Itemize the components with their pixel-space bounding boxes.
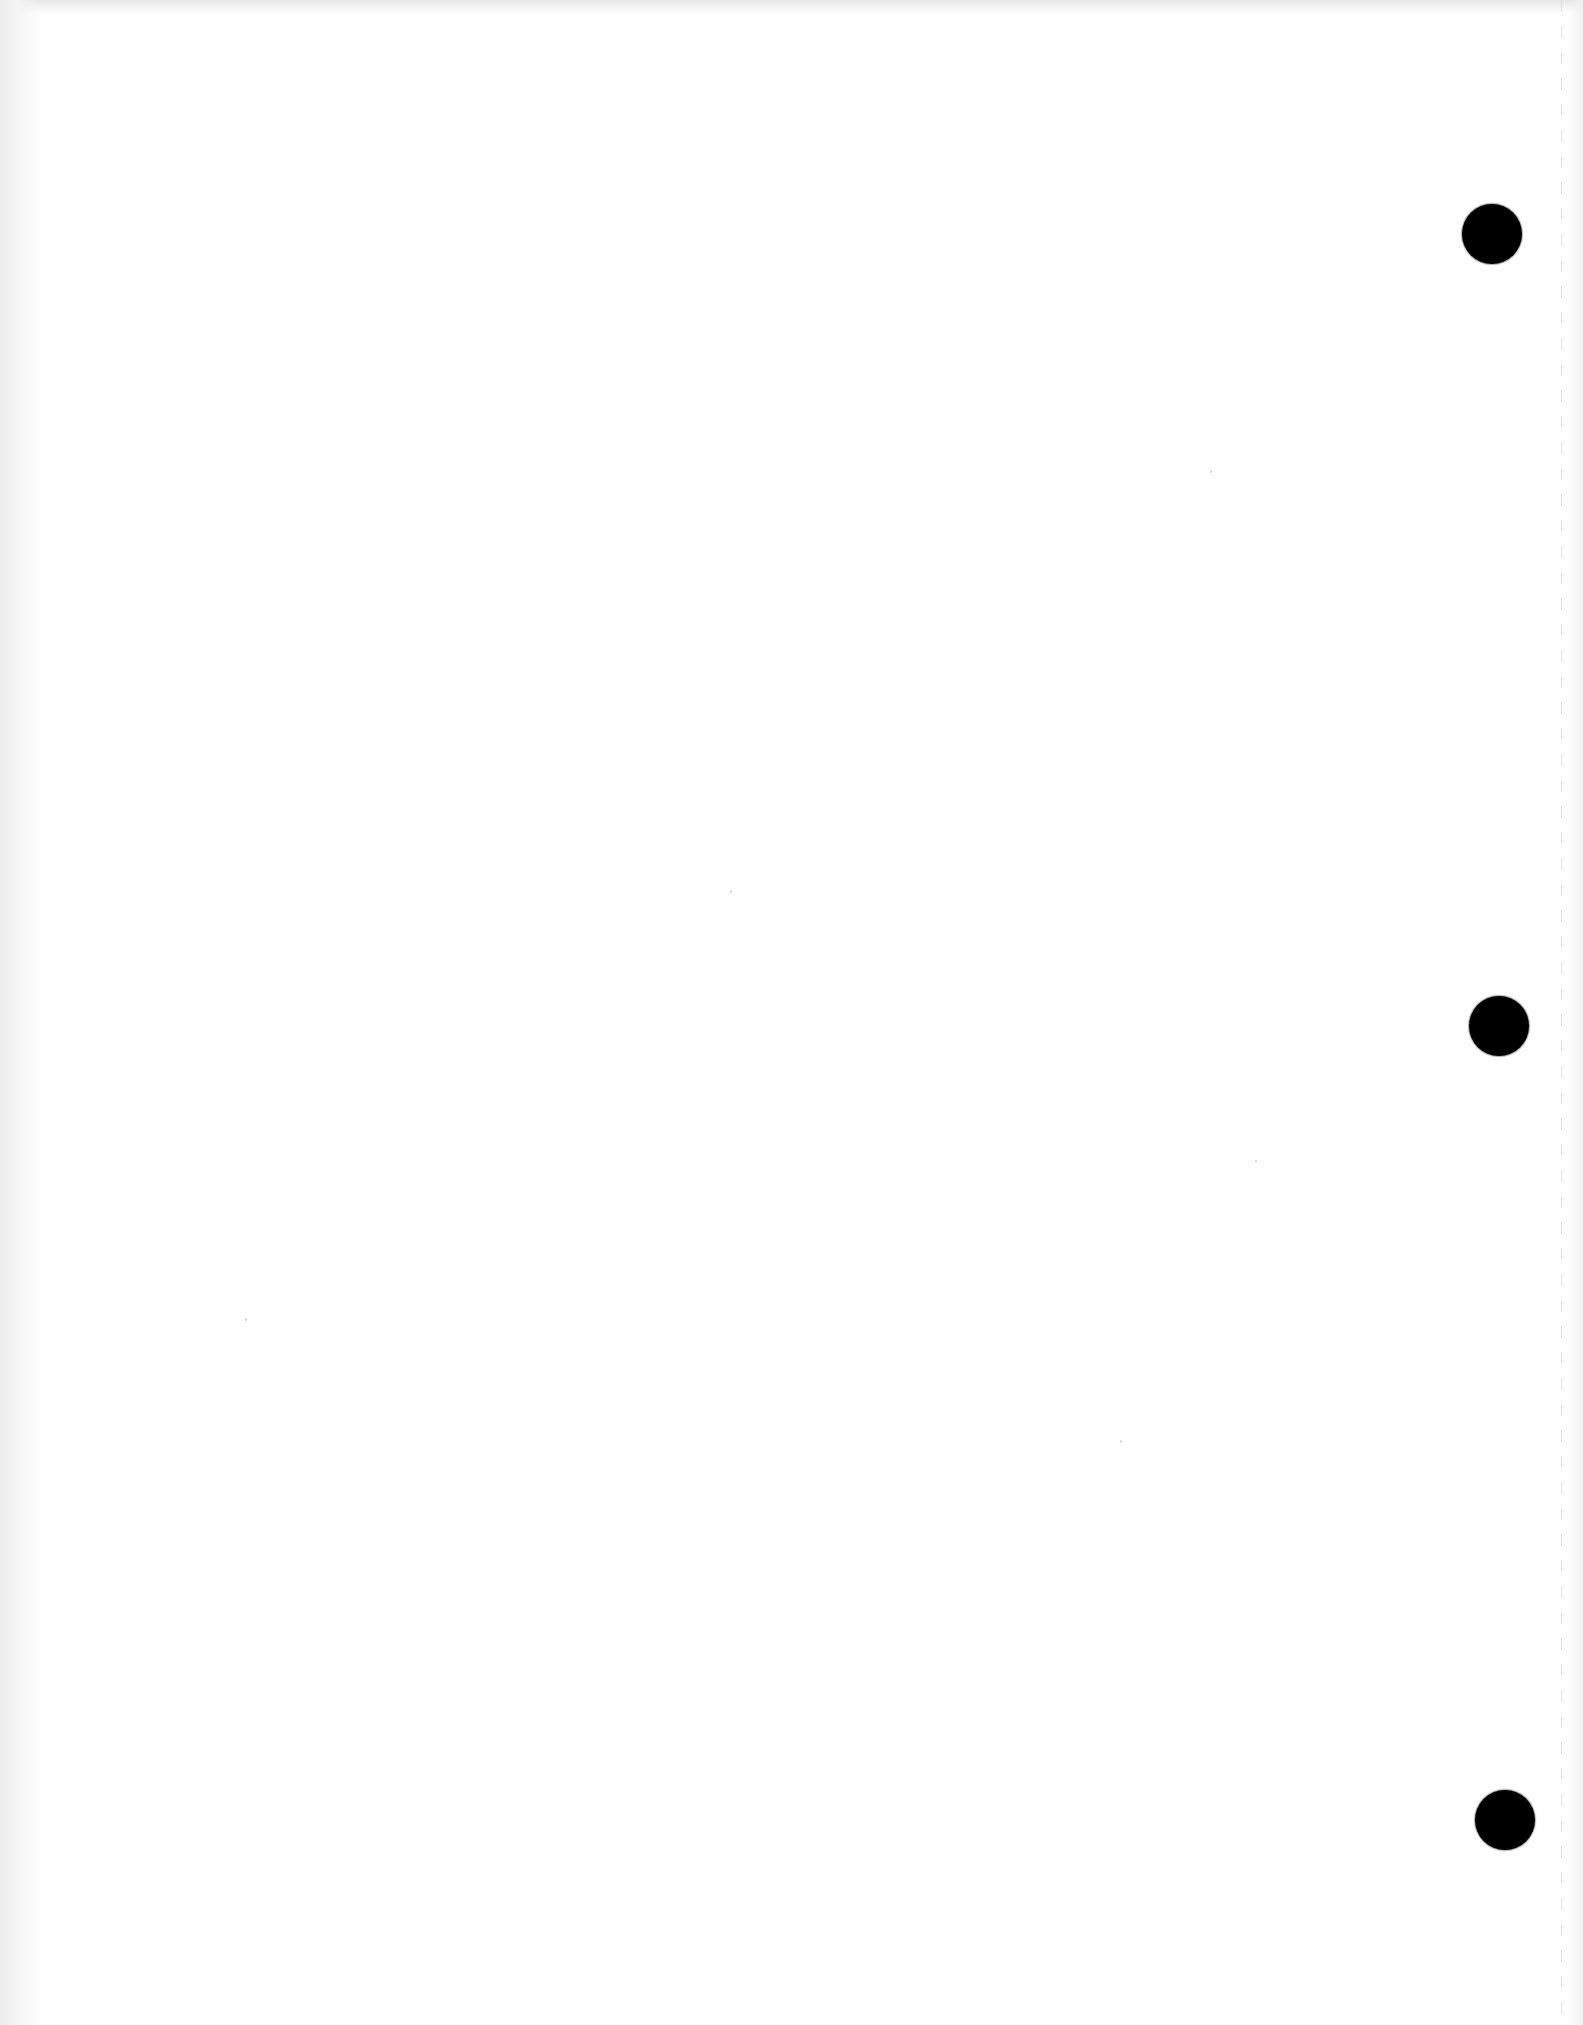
- dust-speck: [1120, 1440, 1122, 1443]
- dust-speck: [730, 890, 732, 893]
- scanned-page: [0, 0, 1583, 2025]
- bottom-hole-icon: [1475, 1790, 1535, 1850]
- top-hole-icon: [1462, 204, 1522, 264]
- dust-speck: [1255, 1160, 1257, 1163]
- middle-hole-icon: [1469, 996, 1529, 1056]
- left-scan-shadow: [0, 0, 40, 2025]
- dust-speck: [245, 1318, 247, 1321]
- dust-speck: [1210, 470, 1212, 473]
- right-page-edge: [1569, 0, 1583, 2025]
- perforation-line: [1561, 0, 1562, 2025]
- top-scan-shadow: [0, 0, 1583, 14]
